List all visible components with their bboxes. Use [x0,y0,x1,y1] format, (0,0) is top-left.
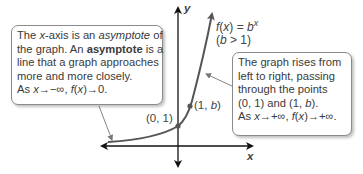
text: x [254,18,259,28]
text: the graph. An [17,43,87,55]
text: →+∞, [260,110,292,122]
text: more and more closely. [17,70,157,84]
text: line that a graph approaches [17,56,157,70]
text: ) = [229,20,247,34]
text: →−∞, [39,83,71,95]
text: )→0. [83,83,107,95]
text: -axis is an [45,29,98,41]
text: (0, 1) and (1, [238,97,305,109]
point-1-b [187,103,192,108]
condition-label: (b > 1) [216,33,251,47]
graph-rises-callout: The graph rises from left to right, pass… [232,52,352,136]
text: left to right, passing [238,70,346,84]
text: As [17,83,33,95]
text: The graph rises from [238,56,346,70]
text: b [247,20,254,34]
text: asymptote [98,29,150,41]
function-label: f(x) = bx [216,17,258,34]
asymptote-callout: The x-axis is an asymptote of the graph.… [11,25,163,105]
text: The [17,29,39,41]
text: ). [311,97,318,109]
point-0-1 [175,123,180,128]
text: (1, [194,99,211,111]
text: of [150,29,162,41]
text: > 1) [227,33,251,47]
text: As [238,110,254,122]
text: )→+∞. [304,110,337,122]
x-axis-label: x [247,150,253,162]
point-1-b-label: (1, b) [194,99,221,111]
right-callout-pointer [206,74,232,86]
text: ) [217,99,221,111]
point-0-1-label: (0, 1) [146,112,173,124]
text: through the points [238,83,346,97]
asymptote-term: asymptote [87,43,143,55]
left-callout-pointer [99,106,112,140]
text: b [220,33,227,47]
y-axis-label: y [184,2,190,14]
text: is a [143,43,164,55]
